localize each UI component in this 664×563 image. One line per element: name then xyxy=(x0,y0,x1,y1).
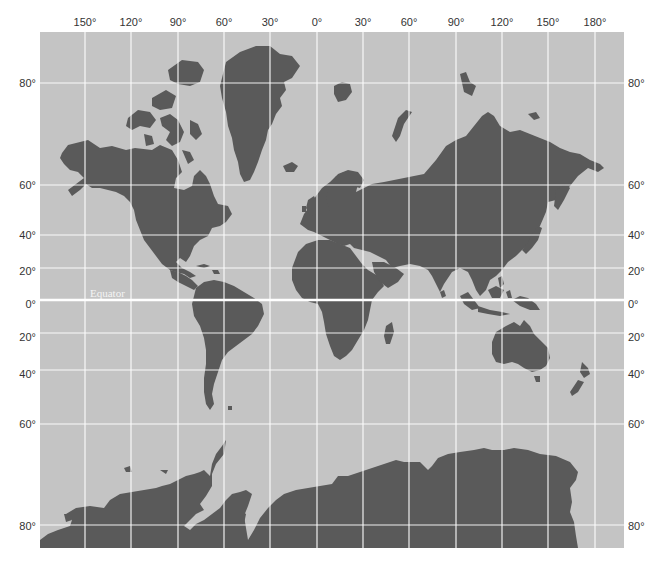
longitude-label: 90° xyxy=(170,16,187,28)
map-canvas: Equator 150° 120° 90° 60° 30° 0° 30° 60°… xyxy=(0,0,664,563)
latitude-label: 20° xyxy=(19,265,36,277)
latitude-label: 20° xyxy=(628,265,645,277)
longitude-label: 60° xyxy=(401,16,418,28)
longitude-label: 30° xyxy=(355,16,372,28)
latitude-label: 80° xyxy=(19,77,36,89)
longitude-label: 150° xyxy=(537,16,560,28)
landmass-falklands xyxy=(228,406,232,410)
longitude-label: 0° xyxy=(312,16,323,28)
longitude-label: 150° xyxy=(74,16,97,28)
latitude-label: 60° xyxy=(19,418,36,430)
latitude-labels-left: 80° 60° 40° 20° 0° 20° 40° 60° 80° xyxy=(19,77,36,532)
latitude-label: 80° xyxy=(628,520,645,532)
longitude-label: 120° xyxy=(120,16,143,28)
latitude-label: 60° xyxy=(628,418,645,430)
equator-label: Equator xyxy=(90,287,125,299)
longitude-label: 120° xyxy=(491,16,514,28)
latitude-label: 40° xyxy=(19,229,36,241)
latitude-label: 20° xyxy=(628,331,645,343)
latitude-label: 40° xyxy=(19,368,36,380)
longitude-label: 60° xyxy=(216,16,233,28)
latitude-label: 60° xyxy=(19,179,36,191)
longitude-label: 180° xyxy=(584,16,607,28)
longitude-labels: 150° 120° 90° 60° 30° 0° 30° 60° 90° 120… xyxy=(74,16,607,28)
world-map: Equator 150° 120° 90° 60° 30° 0° 30° 60°… xyxy=(0,0,664,563)
latitude-label: 40° xyxy=(628,368,645,380)
latitude-label: 0° xyxy=(25,298,36,310)
latitude-label: 60° xyxy=(628,179,645,191)
longitude-label: 30° xyxy=(262,16,279,28)
latitude-labels-right: 80° 60° 40° 20° 0° 20° 40° 60° 80° xyxy=(628,77,645,532)
latitude-label: 0° xyxy=(628,298,639,310)
latitude-label: 40° xyxy=(628,229,645,241)
longitude-label: 90° xyxy=(448,16,465,28)
latitude-label: 20° xyxy=(19,331,36,343)
latitude-label: 80° xyxy=(19,520,36,532)
latitude-label: 80° xyxy=(628,77,645,89)
